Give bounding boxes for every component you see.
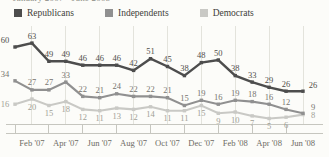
x-axis-label: Oct '07 (155, 138, 180, 148)
data-label: 46 (79, 53, 88, 63)
data-label: 16 (265, 92, 274, 102)
data-label: 63 (28, 31, 37, 41)
data-label: 50 (214, 48, 223, 58)
data-point (234, 110, 237, 113)
data-label: 15 (45, 108, 54, 118)
data-point (234, 99, 237, 102)
data-label: 11 (180, 113, 188, 123)
data-point (200, 104, 203, 107)
x-axis: Feb '07Apr '07Jun '07Aug '07Oct '07Dec '… (6, 125, 323, 149)
data-point (183, 104, 186, 107)
data-label: 21 (95, 85, 104, 95)
data-point (200, 61, 203, 64)
party-trend-chart: January 2007 - June 2008 Republicans Ind… (0, 0, 329, 157)
data-label: 26 (282, 79, 291, 89)
data-label: 21 (163, 85, 172, 95)
data-point (64, 80, 67, 83)
data-point (115, 106, 118, 109)
data-point (47, 104, 50, 107)
data-label: 13 (112, 111, 121, 121)
data-label: 46 (112, 53, 121, 63)
data-label: 6 (284, 120, 288, 130)
data-point (166, 96, 169, 99)
data-label: 24 (112, 81, 121, 91)
data-point (284, 108, 287, 111)
data-point (132, 69, 135, 72)
data-point (98, 109, 101, 112)
data-point (13, 79, 16, 82)
data-point (217, 103, 220, 106)
data-point (98, 96, 101, 99)
data-label: 29 (265, 75, 274, 85)
data-label: 38 (231, 63, 240, 73)
data-point (267, 103, 270, 106)
data-point (166, 65, 169, 68)
x-axis-label: Apr '07 (53, 138, 79, 148)
x-axis-label: Aug '07 (120, 138, 148, 148)
data-point (13, 103, 16, 106)
data-label: 11 (163, 113, 171, 123)
data-label: 22 (146, 84, 155, 94)
data-point (200, 99, 203, 102)
x-axis-label: Jun '07 (88, 138, 113, 148)
data-label: 51 (146, 46, 155, 56)
data-point (98, 64, 101, 67)
data-label: 33 (248, 70, 257, 80)
data-label: 27 (28, 77, 37, 87)
data-label: 26 (309, 80, 318, 90)
data-point (30, 97, 33, 100)
data-point (149, 95, 152, 98)
data-label: 48 (197, 50, 206, 60)
data-point (250, 80, 253, 83)
data-point (217, 112, 220, 115)
data-label: 15 (180, 93, 189, 103)
data-label: 46 (95, 53, 104, 63)
x-axis-label: Feb '07 (19, 138, 45, 148)
data-label: 7 (250, 118, 254, 128)
data-label: 22 (129, 84, 138, 94)
data-point (217, 58, 220, 61)
data-point (267, 117, 270, 120)
data-point (64, 60, 67, 63)
data-label: 12 (282, 97, 291, 107)
data-point (149, 105, 152, 108)
data-label: 12 (129, 112, 138, 122)
data-point (301, 90, 304, 93)
data-point (234, 74, 237, 77)
data-point (183, 74, 186, 77)
data-label: 19 (231, 88, 240, 98)
data-point (301, 112, 304, 115)
data-point (81, 108, 84, 111)
data-label: 15 (197, 108, 206, 118)
data-label: 9 (216, 116, 220, 126)
data-point (166, 109, 169, 112)
data-label: 27 (45, 77, 54, 87)
data-label: 9 (311, 102, 315, 112)
data-point (47, 60, 50, 63)
x-axis-label: Apr '08 (256, 138, 282, 148)
data-label: 5 (267, 121, 271, 131)
data-label: 14 (146, 109, 155, 119)
data-point (81, 64, 84, 67)
data-label: 16 (214, 92, 223, 102)
data-point (183, 109, 186, 112)
data-point (13, 45, 16, 48)
data-label: 49 (62, 49, 71, 59)
data-point (81, 95, 84, 98)
data-label: 18 (248, 89, 257, 99)
data-label: 19 (197, 88, 206, 98)
data-point (30, 88, 33, 91)
x-axis-label: Jun '08 (291, 138, 315, 148)
data-label: 11 (96, 113, 104, 123)
data-point (132, 95, 135, 98)
data-point (115, 64, 118, 67)
data-label: 33 (62, 70, 71, 80)
line-chart: Feb '07Apr '07Jun '07Aug '07Oct '07Dec '… (0, 0, 329, 157)
data-label: 22 (79, 84, 88, 94)
data-label: 16 (1, 99, 10, 109)
data-point (250, 114, 253, 117)
data-point (267, 86, 270, 89)
data-label: 42 (129, 58, 138, 68)
data-label: 20 (28, 102, 37, 112)
x-axis-label: Feb '08 (223, 138, 248, 148)
